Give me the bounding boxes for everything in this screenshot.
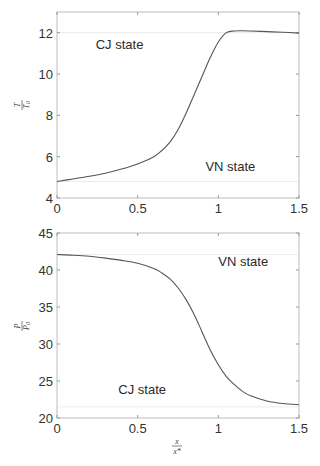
x-tick-label: 1.5 [290,421,308,436]
axes-frame [57,12,299,198]
x-tick-label: 0 [53,421,60,436]
y-tick-label: 10 [39,67,53,82]
y-tick-label: 40 [39,263,53,278]
svg-text:T0: T0 [22,101,31,108]
data-line [57,31,299,182]
state-annotation: CJ state [118,382,166,397]
x-tick-label: 0.5 [129,421,147,436]
state-annotation: VN state [205,159,255,174]
x-tick-label: 1 [215,421,222,436]
svg-text:T: T [13,102,22,107]
y-axis-label: TT0 [13,100,31,110]
y-tick-label: 20 [39,411,53,426]
pressure-plot: 00.511.5202530354045VN stateCJ statePP0x… [13,226,308,456]
x-tick-label: 0 [53,201,60,216]
x-tick-label: 0.5 [129,201,147,216]
y-tick-label: 12 [39,26,53,41]
svg-text:x: x [174,437,179,446]
temperature-plot: 00.511.54681012CJ stateVN stateTT0 [13,12,308,216]
state-annotation: CJ state [96,37,144,52]
x-axis-label: xx* [172,437,182,456]
y-tick-label: 8 [46,108,53,123]
y-tick-label: 25 [39,374,53,389]
y-tick-label: 4 [46,191,53,206]
y-tick-label: 45 [39,226,53,241]
chart-canvas: 00.511.54681012CJ stateVN stateTT0 00.51… [0,0,320,466]
svg-text:P: P [13,323,22,329]
x-tick-label: 1.5 [290,201,308,216]
y-tick-label: 30 [39,337,53,352]
svg-text:P0: P0 [22,322,31,331]
svg-text:x*: x* [172,447,181,456]
figure: 00.511.54681012CJ stateVN stateTT0 00.51… [0,0,320,466]
x-tick-label: 1 [215,201,222,216]
y-tick-label: 6 [46,150,53,165]
state-annotation: VN state [218,254,268,269]
data-line [57,254,299,404]
y-axis-label: PP0 [13,321,31,331]
y-tick-label: 35 [39,300,53,315]
